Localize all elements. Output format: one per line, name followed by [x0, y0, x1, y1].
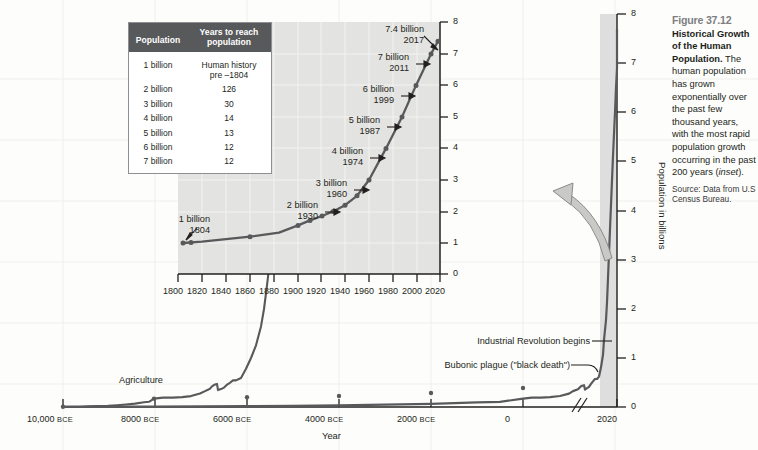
inset-ytick-6: 6 — [453, 79, 458, 89]
table-cell-population: 4 billion — [129, 111, 187, 125]
main-annotation-bubonic-plague: Bubonic plague ("black death") — [385, 360, 570, 371]
main-x-axis-title: Year — [322, 430, 341, 441]
inset-ytick-4: 4 — [453, 142, 458, 152]
table-cell-years-line1: Human history — [189, 60, 269, 70]
table-cell-population: 7 billion — [129, 154, 187, 168]
table-cell-years: 30 — [187, 97, 271, 111]
table-spacer — [129, 169, 271, 173]
table-row: 3 billion 30 — [129, 97, 271, 111]
main-ytick-4: 4 — [631, 205, 636, 215]
table-header-years: Years to reach population — [187, 23, 271, 52]
table-cell-population: 5 billion — [129, 125, 187, 139]
main-ytick-3: 3 — [631, 254, 636, 264]
main-ytick-0: 0 — [631, 401, 636, 411]
table-header-years-line1: Years to reach — [190, 27, 268, 37]
inset-ytick-8: 8 — [453, 16, 458, 26]
table-cell-years-line2: pre –1804 — [189, 70, 269, 80]
inset-xtick-2020: 2020 — [425, 286, 455, 296]
main-ytick-1: 1 — [631, 352, 636, 362]
inset-annotation-3-billion: 3 billion 1960 — [287, 178, 347, 199]
inset-annotation-6-billion: 6 billion 1999 — [334, 84, 394, 105]
caption-body: The human population has grown exponenti… — [672, 54, 756, 177]
inset-ytick-2: 2 — [453, 206, 458, 216]
main-xtick-10000-bce: 10,000 BCE — [27, 414, 99, 424]
inset-annotation-1-billion: 1 billion 1804 — [150, 214, 210, 235]
table-row: 6 billion 12 — [129, 140, 271, 154]
table-row: 2 billion 126 — [129, 82, 271, 96]
main-ytick-8: 8 — [631, 8, 636, 18]
main-xtick-6000-bce: 6000 BCE — [213, 414, 281, 424]
table-row: 5 billion 13 — [129, 125, 271, 139]
table-cell-population: 6 billion — [129, 140, 187, 154]
figure-number: Figure 37.12 — [672, 14, 756, 27]
main-xtick-0: 0 — [505, 414, 541, 424]
caption-text: Historical Growth of the Human Populatio… — [672, 28, 756, 179]
table-cell-population: 1 billion — [129, 56, 187, 83]
inset-x-ticks — [178, 274, 440, 282]
table-cell-population: 2 billion — [129, 82, 187, 96]
inset-annotation-5-billion: 5 billion 1987 — [320, 115, 380, 136]
table-row: 1 billion Human history pre –1804 — [129, 56, 271, 83]
inset-ytick-5: 5 — [453, 111, 458, 121]
inset-annotation-4-billion: 4 billion 1974 — [303, 146, 363, 167]
table-cell-population: 3 billion — [129, 97, 187, 111]
caption-source: Source: Data from U.S Census Bureau. — [672, 184, 756, 205]
inset-ytick-0: 0 — [453, 268, 458, 278]
table-header-population: Population — [129, 23, 187, 52]
inset-y-ticks — [440, 22, 448, 274]
table-header-row: Population Years to reach population — [129, 23, 271, 52]
main-xtick-8000-bce: 8000 BCE — [121, 414, 189, 424]
inset-ytick-7: 7 — [453, 48, 458, 58]
table-row: 4 billion 14 — [129, 111, 271, 125]
table-header-years-line2: population — [190, 37, 268, 47]
inset-ytick-3: 3 — [453, 174, 458, 184]
main-xtick-2000-bce: 2000 BCE — [397, 414, 465, 424]
main-annotation-industrial-revolution: Industrial Revolution begins — [440, 336, 590, 347]
inset-annotation-2-billion: 2 billion 1930 — [258, 200, 318, 221]
table-row: 7 billion 12 — [129, 154, 271, 168]
table-cell-years: 13 — [187, 125, 271, 139]
main-xtick-4000-bce: 4000 BCE — [305, 414, 373, 424]
axis-break-icon — [572, 398, 587, 412]
table-cell-years: 12 — [187, 140, 271, 154]
main-ytick-7: 7 — [631, 57, 636, 67]
main-ytick-5: 5 — [631, 155, 636, 165]
main-ytick-2: 2 — [631, 303, 636, 313]
figure-caption: Figure 37.12 Historical Growth of the Hu… — [672, 14, 756, 205]
inset-annotation-7-billion: 7 billion 2011 — [349, 52, 409, 73]
table-cell-years: 14 — [187, 111, 271, 125]
table-cell-years: 12 — [187, 154, 271, 168]
population-milestone-table: Population Years to reach population 1 b… — [128, 22, 272, 174]
table-cell-years: Human history pre –1804 — [187, 56, 271, 83]
main-xtick-2020: 2020 — [597, 414, 637, 424]
inset-annotation-7-4-billion: 7.4 billion 2017 — [354, 24, 424, 45]
main-ytick-6: 6 — [631, 106, 636, 116]
caption-inset-word: inset — [719, 167, 739, 177]
inset-ytick-1: 1 — [453, 237, 458, 247]
main-annotation-agriculture: Agriculture — [119, 375, 163, 386]
main-y-axis-title: Population in billions — [657, 162, 668, 249]
table-cell-years: 126 — [187, 82, 271, 96]
figure-container: Population Years to reach population 1 b… — [0, 0, 758, 450]
main-y-ticks — [617, 14, 626, 407]
